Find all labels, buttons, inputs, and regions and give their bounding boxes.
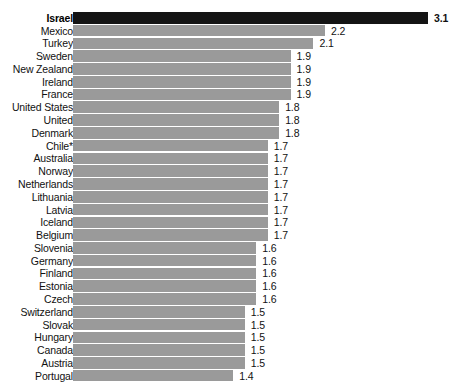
bar-track [73,127,279,139]
value-label: 1.6 [262,242,276,253]
value-label: 1.8 [285,102,299,113]
category-label: Denmark [31,127,73,138]
value-label: 1.7 [274,204,288,215]
bar-row: Sweden1.9 [0,50,465,62]
bar-row: Israel3.1 [0,12,465,24]
bar-track [73,12,428,24]
bar [73,25,325,37]
bar-track [73,89,291,101]
category-label: Germany [31,255,73,266]
category-label: United States [12,102,73,113]
bar-track [73,280,256,292]
bar [73,332,245,344]
value-label: 2.2 [331,25,345,36]
value-label: 1.6 [262,281,276,292]
bar-track [73,268,256,280]
bar-track [73,229,268,241]
bar-row: Slovenia1.6 [0,242,465,254]
bar-track [73,306,245,318]
bar [73,255,256,267]
bar [73,229,268,241]
bar [73,268,256,280]
bar-track [73,293,256,305]
bar-row: Slovak1.5 [0,319,465,331]
bar [73,127,279,139]
bar-track [73,25,325,37]
bar-row: Austria1.5 [0,357,465,369]
category-label: Czech [44,293,73,304]
category-label: Netherlands [18,178,73,189]
bar-row: Mexico2.2 [0,25,465,37]
category-label: Portugal [35,370,73,381]
value-label: 3.1 [434,12,448,23]
bar [73,153,268,165]
value-label: 1.7 [274,178,288,189]
bar-row: Germany1.6 [0,255,465,267]
value-label: 1.5 [251,306,265,317]
category-label: Belgium [36,230,73,241]
bar-track [73,319,245,331]
category-label: Australia [33,153,73,164]
bar [73,344,245,356]
bar [73,306,245,318]
bar-row: Estonia1.6 [0,280,465,292]
bar-row: Portugal1.4 [0,370,465,382]
bar-row: Canada1.5 [0,344,465,356]
bar [73,217,268,229]
value-label: 1.7 [274,166,288,177]
bar-row: Iceland1.7 [0,217,465,229]
bar [73,357,245,369]
value-label: 1.6 [262,293,276,304]
bar-track [73,242,256,254]
bar-row: Ireland1.9 [0,76,465,88]
category-label: Latvia [46,204,73,215]
category-label: Sweden [36,51,73,62]
bar-row: Czech1.6 [0,293,465,305]
bar [73,319,245,331]
bar-track [73,140,268,152]
bar-track [73,178,268,190]
category-label: Slovenia [34,242,73,253]
category-label: Mexico [41,25,73,36]
bar-track [73,165,268,177]
bar-row: Belgium1.7 [0,229,465,241]
value-label: 1.4 [239,370,253,381]
bar-track [73,191,268,203]
value-label: 1.5 [251,345,265,356]
bar-track [73,332,245,344]
value-label: 1.6 [262,268,276,279]
bar [73,242,256,254]
category-label: Slovak [42,319,73,330]
bar [73,101,279,113]
bar [73,191,268,203]
value-label: 1.7 [274,140,288,151]
bar-track [73,76,291,88]
category-label: Lithuania [32,191,73,202]
bar-track [73,63,291,75]
category-label: Austria [41,357,73,368]
bar [73,12,428,24]
bar-row: New Zealand1.9 [0,63,465,75]
plot-area: Israel3.1Mexico2.2Turkey2.1Sweden1.9New … [0,12,465,383]
bar-track [73,204,268,216]
value-label: 1.8 [285,127,299,138]
category-label: Switzerland [20,306,73,317]
category-label: Ireland [42,76,73,87]
bar [73,140,268,152]
category-label: Estonia [39,281,73,292]
bar-track [73,255,256,267]
category-label: France [41,89,73,100]
category-label: United [44,115,73,126]
bar [73,293,256,305]
value-label: 2.1 [319,38,333,49]
category-label: Canada [37,345,73,356]
bar [73,38,313,50]
bar-track [73,101,279,113]
value-label: 1.5 [251,332,265,343]
value-label: 1.9 [297,63,311,74]
category-label: Turkey [42,38,73,49]
category-label: Chile* [46,140,73,151]
value-label: 1.9 [297,76,311,87]
bar-row: Netherlands1.7 [0,178,465,190]
bar [73,114,279,126]
